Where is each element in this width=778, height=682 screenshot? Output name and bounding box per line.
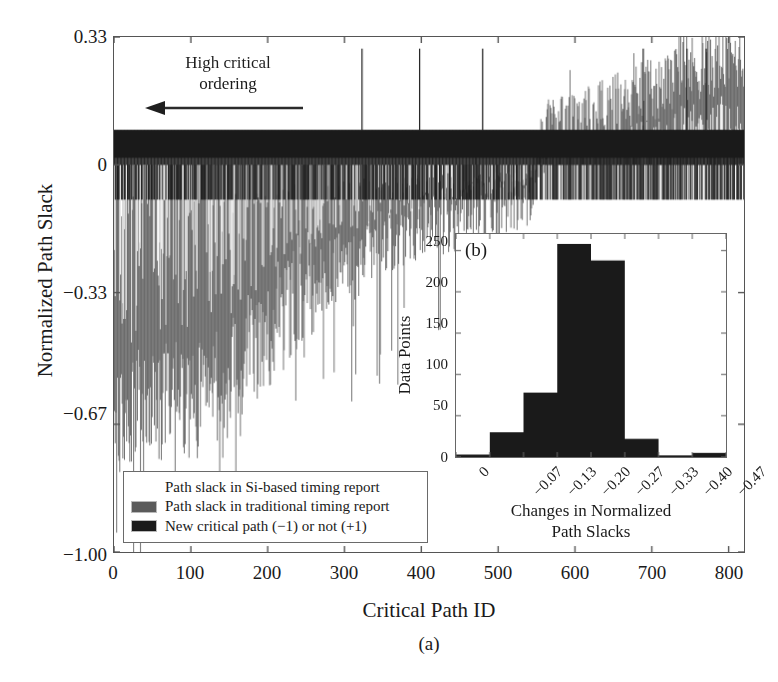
inset-x-axis-title-line2: Path Slacks: [552, 522, 631, 541]
main-xtick-400: 400: [391, 563, 451, 582]
legend-item-new-critical-path: New critical path (−1) or not (+1): [131, 517, 420, 536]
main-xtick-300: 300: [314, 563, 374, 582]
legend-item-traditional: Path slack in traditional timing report: [131, 497, 420, 516]
main-ytick-n100: −1.00: [0, 545, 107, 564]
inset-y-axis-title: Data Points: [395, 275, 415, 435]
main-xtick-600: 600: [545, 563, 605, 582]
panel-b-label: (b): [465, 240, 487, 259]
legend-label-si-based: Path slack in Si-based timing report: [165, 480, 380, 495]
main-x-axis-title: Critical Path ID: [113, 598, 745, 623]
inset-chart-plot-area: [455, 233, 727, 458]
inset-ytick-250: 250: [402, 234, 448, 249]
panel-a-label: (a): [113, 633, 745, 655]
figure-root: 0.33 0 −0.33 −0.67 −1.00 0 100 200 300 4…: [0, 0, 778, 682]
main-xtick-500: 500: [468, 563, 528, 582]
legend-item-si-based: Path slack in Si-based timing report: [131, 478, 420, 497]
main-xtick-100: 100: [160, 563, 220, 582]
inset-x-axis-title: Changes in Normalized Path Slacks: [455, 500, 727, 542]
legend-label-traditional: Path slack in traditional timing report: [165, 499, 390, 514]
inset-histogram-bars: [456, 234, 726, 457]
main-chart-legend: Path slack in Si-based timing report Pat…: [123, 471, 428, 543]
legend-swatch-si-based: [131, 481, 157, 493]
inset-ytick-0: 0: [402, 450, 448, 465]
main-xtick-800: 800: [699, 563, 759, 582]
legend-swatch-new-critical-path: [131, 520, 157, 532]
main-xtick-200: 200: [237, 563, 297, 582]
inset-x-axis-title-line1: Changes in Normalized: [511, 501, 672, 520]
legend-swatch-traditional: [131, 501, 157, 513]
main-xtick-700: 700: [622, 563, 682, 582]
main-y-axis-title: Normalized Path Slack: [33, 21, 58, 541]
legend-label-new-critical-path: New critical path (−1) or not (+1): [165, 519, 367, 534]
main-xtick-0: 0: [83, 563, 143, 582]
